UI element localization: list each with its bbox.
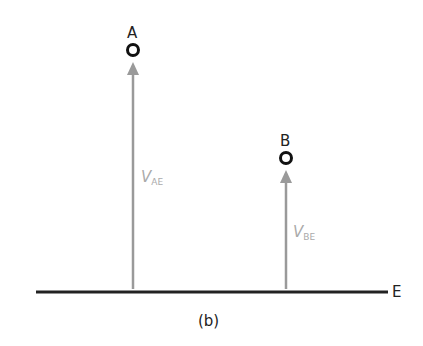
velocity-label-a: VAE — [141, 168, 163, 187]
ground-label: E — [392, 283, 401, 301]
point-a — [128, 45, 139, 56]
arrowhead-b — [280, 170, 292, 183]
point-b — [281, 153, 292, 164]
velocity-diagram: E A VAE B VBE (b) — [0, 0, 423, 346]
figure-caption: (b) — [198, 312, 219, 330]
arrowhead-a — [127, 62, 139, 75]
velocity-label-b: VBE — [293, 223, 315, 242]
point-b-label: B — [280, 132, 290, 150]
point-a-label: A — [127, 24, 138, 42]
